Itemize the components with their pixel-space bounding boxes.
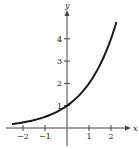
y-tick-label: 2	[57, 79, 62, 88]
y-axis-arrow-icon	[65, 10, 70, 16]
curve	[12, 22, 117, 124]
x-axis-arrow-icon	[125, 126, 131, 131]
x-axis-label: x	[133, 124, 138, 133]
y-tick-label: 3	[57, 57, 62, 66]
x-tick-label: −1	[39, 132, 51, 141]
x-tick-label: 2	[108, 132, 113, 141]
exponential-chart: xy−2−1121234	[0, 0, 139, 149]
y-axis-label: y	[64, 1, 70, 10]
x-tick-label: 1	[86, 132, 91, 141]
axes: xy−2−1121234	[6, 1, 138, 146]
y-tick-label: 4	[57, 35, 62, 44]
x-tick-label: −2	[17, 132, 29, 141]
